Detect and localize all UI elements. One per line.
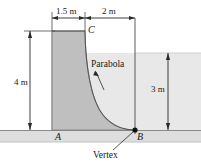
annotation-label-parabola: Parabola [91,60,124,70]
dim-arrow-height-a-top [28,31,32,38]
parabolic-dam-figure: 1.5 m 2 m 4 m 3 m C A B Parabola Vertex [0,0,201,167]
annotation-label-vertex: Vertex [93,151,118,161]
dim-arrow-width-b-right [129,16,135,20]
ground-strip [0,130,201,142]
dim-arrow-width-a-left [52,16,58,20]
dimension-label-top-left-width: 1.5 m [56,7,77,16]
dimension-label-top-right-width: 2 m [102,7,116,16]
dimension-label-right-height: 3 m [151,85,165,94]
figure-canvas [0,0,201,167]
point-label-b: B [137,132,143,142]
dim-arrow-height-a-bottom [28,123,32,130]
dimension-label-left-height: 4 m [14,78,28,87]
dim-arrow-width-b-left [85,16,91,20]
point-label-c: C [88,25,95,35]
dim-arrow-width-a-right [79,16,85,20]
point-label-a: A [55,132,61,142]
